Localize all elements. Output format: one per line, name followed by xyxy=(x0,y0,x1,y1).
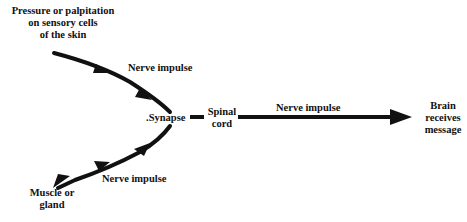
stimulus-label-line3: of the skin xyxy=(0,29,126,41)
synapse-connector xyxy=(190,115,204,119)
spinal-cord-line1: Spinal xyxy=(206,106,238,118)
motor-impulse-text: Nerve impulse xyxy=(102,173,166,184)
brain-line2: receives xyxy=(420,112,466,124)
synapse-text: .Synapse xyxy=(146,112,185,123)
brain-line1: Brain xyxy=(420,100,466,112)
stimulus-label-line1: Pressure or palpitation xyxy=(0,5,126,17)
effector-line1: Muscle or xyxy=(28,187,76,199)
sensory-impulse-text: Nerve impulse xyxy=(128,62,192,73)
synapse-label: .Synapse xyxy=(146,112,185,124)
ascending-impulse-text: Nerve impulse xyxy=(276,102,340,113)
spinal-cord-line2: cord xyxy=(206,118,238,130)
brain-label: Brain receives message xyxy=(420,100,466,136)
spinal-cord-label: Spinal cord xyxy=(206,106,238,130)
effector-label: Muscle or gland xyxy=(28,187,76,211)
effector-line2: gland xyxy=(28,199,76,211)
brain-line3: message xyxy=(420,124,466,136)
stimulus-label-line2: on sensory cells xyxy=(0,17,126,29)
reflex-arc-diagram: Pressure or palpitation on sensory cells… xyxy=(0,0,467,222)
motor-impulse-label: Nerve impulse xyxy=(102,173,166,185)
ascending-impulse-label: Nerve impulse xyxy=(276,102,340,114)
sensory-impulse-label: Nerve impulse xyxy=(128,62,192,74)
stimulus-label: Pressure or palpitation on sensory cells… xyxy=(0,5,126,41)
